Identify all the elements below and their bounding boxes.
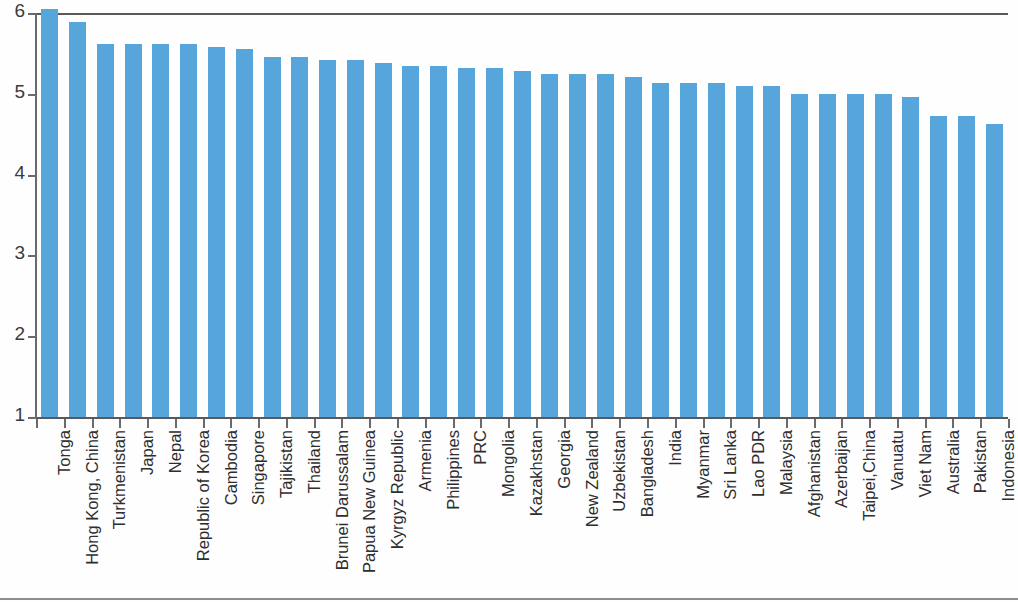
bar[interactable] xyxy=(958,116,975,417)
bar[interactable] xyxy=(652,83,669,417)
x-axis-tick-label: Tajikistan xyxy=(278,430,295,498)
x-axis-tick-label: Cambodia xyxy=(223,430,240,505)
bar-chart: 123456 TongaHong Kong, ChinaTurkmenistan… xyxy=(0,0,1018,602)
x-axis-tick-label: Singapore xyxy=(250,430,267,505)
bar[interactable] xyxy=(264,57,281,417)
x-axis-tick-mark xyxy=(480,419,482,428)
bar[interactable] xyxy=(97,44,114,417)
bar[interactable] xyxy=(347,60,364,417)
x-axis-tick-label: Lao PDR xyxy=(750,430,767,497)
x-axis-tick-label: Turkmenistan xyxy=(111,430,128,529)
x-axis-tick-mark xyxy=(36,419,38,428)
x-axis-tick-mark xyxy=(758,419,760,428)
x-axis-tick-label: Nepal xyxy=(167,430,184,473)
x-axis-tick-mark xyxy=(786,419,788,428)
bar[interactable] xyxy=(736,86,753,417)
bar[interactable] xyxy=(708,83,725,417)
x-axis-tick-mark xyxy=(952,419,954,428)
x-axis-tick-label: New Zealand xyxy=(584,430,601,527)
x-axis-tick-label: Myanmar xyxy=(695,430,712,499)
bar[interactable] xyxy=(152,44,169,417)
x-axis-tick-mark xyxy=(980,419,982,428)
bar[interactable] xyxy=(763,86,780,417)
bar[interactable] xyxy=(597,74,614,417)
x-axis-tick-mark xyxy=(647,419,649,428)
x-axis-tick-mark xyxy=(341,419,343,428)
x-axis-tick-mark xyxy=(730,419,732,428)
x-axis-tick-mark xyxy=(619,419,621,428)
x-axis-tick-label: Viet Nam xyxy=(917,430,934,498)
y-axis-tick-label: 4 xyxy=(14,163,25,182)
y-axis-tick-label: 6 xyxy=(14,1,25,20)
bar[interactable] xyxy=(236,49,253,417)
x-axis-tick-label: Philippines xyxy=(445,430,462,510)
x-axis-tick-mark xyxy=(64,419,66,428)
x-axis-tick-mark xyxy=(536,419,538,428)
bar[interactable] xyxy=(875,94,892,417)
y-axis-tick-label: 5 xyxy=(14,82,25,101)
bar[interactable] xyxy=(902,97,919,417)
bar[interactable] xyxy=(458,68,475,417)
bar[interactable] xyxy=(819,94,836,417)
x-axis-tick-mark xyxy=(230,419,232,428)
x-axis-tick-mark xyxy=(119,419,121,428)
bar[interactable] xyxy=(514,71,531,417)
x-axis-tick-label: Republic of Korea xyxy=(195,430,212,561)
y-axis-tick-label: 3 xyxy=(14,243,25,262)
bars-layer xyxy=(36,0,1008,419)
bar[interactable] xyxy=(930,116,947,417)
x-axis-tick-mark xyxy=(564,419,566,428)
x-axis-tick-label: Bangladesh xyxy=(639,430,656,517)
x-axis-tick-mark xyxy=(258,419,260,428)
bar[interactable] xyxy=(986,124,1003,417)
bar[interactable] xyxy=(69,22,86,417)
bar[interactable] xyxy=(125,44,142,417)
bar[interactable] xyxy=(486,68,503,417)
x-axis-tick-mark xyxy=(897,419,899,428)
x-axis-tick-label: Sri Lanka xyxy=(722,430,739,500)
x-axis-tick-mark xyxy=(925,419,927,428)
x-axis-tick-label: Tonga xyxy=(56,430,73,475)
y-axis-tick-label: 2 xyxy=(14,324,25,343)
bar[interactable] xyxy=(791,94,808,417)
x-axis-tick-label: Brunei Darussalam xyxy=(334,430,351,570)
x-axis-tick-label: Georgia xyxy=(556,430,573,489)
x-axis-tick-mark xyxy=(453,419,455,428)
bar[interactable] xyxy=(375,63,392,417)
x-axis-tick-label: Mongolia xyxy=(500,430,517,497)
x-axis-tick-label: Papua New Guinea xyxy=(361,430,378,573)
x-axis-tick-mark xyxy=(814,419,816,428)
x-axis-tick-label: Hong Kong, China xyxy=(84,430,101,565)
bar[interactable] xyxy=(208,47,225,417)
y-axis-tick-label: 1 xyxy=(14,405,25,424)
x-axis-tick-mark xyxy=(869,419,871,428)
x-axis-tick-label: Kazakhstan xyxy=(528,430,545,516)
bar[interactable] xyxy=(180,44,197,417)
x-axis-tick-label: Afghanistan xyxy=(806,430,823,517)
x-axis-tick-mark xyxy=(397,419,399,428)
bar[interactable] xyxy=(680,83,697,417)
bar[interactable] xyxy=(847,94,864,417)
bar[interactable] xyxy=(402,66,419,417)
bar[interactable] xyxy=(291,57,308,417)
x-axis-tick-mark xyxy=(703,419,705,428)
x-axis-tick-mark xyxy=(203,419,205,428)
x-axis-tick-label: Armenia xyxy=(417,430,434,491)
bar[interactable] xyxy=(41,9,58,417)
x-axis-tick-mark xyxy=(286,419,288,428)
bar[interactable] xyxy=(541,74,558,417)
page-bottom-rule xyxy=(0,598,1018,600)
x-axis-tick-label: Vanuatu xyxy=(889,430,906,490)
x-axis-tick-mark xyxy=(841,419,843,428)
bar[interactable] xyxy=(625,77,642,417)
bar[interactable] xyxy=(430,66,447,417)
x-axis-tick-label: Kyrgyz Republic xyxy=(389,430,406,549)
x-axis-tick-label: Malaysia xyxy=(778,430,795,495)
x-axis-tick-mark xyxy=(147,419,149,428)
bar[interactable] xyxy=(319,60,336,417)
x-axis-tick-label: Pakistan xyxy=(972,430,989,493)
x-axis-tick-mark xyxy=(508,419,510,428)
bar[interactable] xyxy=(569,74,586,417)
x-axis-tick-label: PRC xyxy=(472,430,489,465)
x-axis-tick-label: Azerbaijan xyxy=(833,430,850,508)
